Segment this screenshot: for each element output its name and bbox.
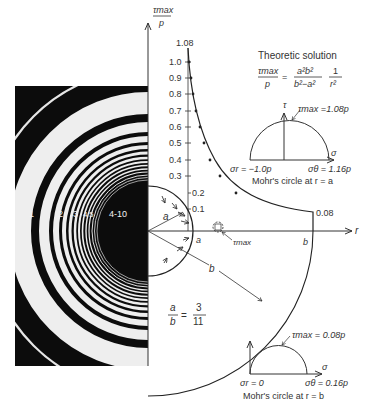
svg-text:2: 2 <box>58 209 63 219</box>
svg-text:Mohr's circle at r = b: Mohr's circle at r = b <box>243 391 324 401</box>
inner-radius-label: a <box>163 211 169 222</box>
svg-text:τmax: τmax <box>258 66 279 76</box>
svg-text:4-10: 4-10 <box>109 209 127 219</box>
svg-text:1.0: 1.0 <box>169 57 182 67</box>
tau-marker-label: τmax <box>233 238 252 247</box>
theory-formula: Theoretic solution τmax p = a²b² b²−a² 1… <box>258 50 342 89</box>
svg-text:τ: τ <box>283 100 287 110</box>
svg-text:0.4: 0.4 <box>169 155 182 165</box>
svg-text:b: b <box>170 316 176 327</box>
svg-text:0.1: 0.1 <box>192 204 205 214</box>
svg-text:τmax =1.08p: τmax =1.08p <box>298 104 349 114</box>
stress-element-icon: τmax <box>213 222 252 247</box>
svg-text:0.2: 0.2 <box>192 188 205 198</box>
svg-text:r²: r² <box>330 79 337 89</box>
outer-point-label: b <box>303 237 308 247</box>
svg-text:1: 1 <box>333 66 338 76</box>
outer-boundary <box>148 231 313 396</box>
svg-text:0.6: 0.6 <box>169 122 182 132</box>
svg-text:0.7: 0.7 <box>169 106 182 116</box>
svg-text:τmax = 0.08p: τmax = 0.08p <box>292 330 345 340</box>
svg-text:p: p <box>264 79 270 89</box>
svg-text:σr = −1.0p: σr = −1.0p <box>230 164 271 174</box>
svg-text:4: 4 <box>83 210 88 219</box>
experimental-points <box>188 61 238 195</box>
svg-text:τmax: τmax <box>153 5 174 15</box>
svg-text:11: 11 <box>193 316 204 327</box>
svg-text:Mohr's circle at r = a: Mohr's circle at r = a <box>252 176 333 186</box>
svg-text:3: 3 <box>73 209 78 219</box>
svg-text:σθ = 0.16p: σθ = 0.16p <box>305 378 348 388</box>
svg-text:b²−a²: b²−a² <box>294 79 316 89</box>
svg-text:=: = <box>282 72 287 82</box>
svg-text:0.3: 0.3 <box>169 171 182 181</box>
tail-label: 0.08 <box>316 208 334 218</box>
svg-text:5: 5 <box>89 210 94 219</box>
svg-text:a²b²: a²b² <box>297 66 314 76</box>
svg-text:σ: σ <box>331 148 337 158</box>
svg-text:0.8: 0.8 <box>169 89 182 99</box>
svg-text:p: p <box>158 18 164 28</box>
outer-radius-line-b <box>219 271 262 301</box>
stress-diagram: 1 2 3 4 5 4-10 τmax p r 1.08 1.0 0.9 0.8… <box>0 0 366 412</box>
svg-text:a: a <box>170 302 176 313</box>
r-axis-label: r <box>355 225 359 236</box>
outer-radius-label: b <box>209 263 215 274</box>
svg-text:3: 3 <box>196 302 202 313</box>
svg-text:0.9: 0.9 <box>169 73 182 83</box>
theoretical-curve <box>188 48 313 231</box>
peak-label: 1.08 <box>176 38 194 48</box>
svg-text:σθ = 1.16p: σθ = 1.16p <box>308 164 351 174</box>
svg-text:σr = 0: σr = 0 <box>240 378 264 388</box>
svg-text:0.5: 0.5 <box>169 138 182 148</box>
svg-text:=: = <box>181 310 187 321</box>
mohr-circle-b: σ τmax = 0.08p σr = 0 σθ = 0.16p Mohr's … <box>240 330 348 401</box>
mohr-circle-a: τ σ τmax =1.08p σr = −1.0p σθ = 1.16p Mo… <box>230 100 351 186</box>
inner-point-label: a <box>196 235 201 245</box>
svg-text:Theoretic solution: Theoretic solution <box>258 50 337 61</box>
svg-text:σ: σ <box>322 362 328 372</box>
ratio-label: a b = 3 11 <box>168 302 206 327</box>
svg-text:1: 1 <box>29 209 34 219</box>
y-axis-label: τmax p <box>153 5 174 28</box>
value-scale: 1.08 1.0 0.9 0.8 0.7 0.6 0.5 0.4 0.3 0.2… <box>169 38 205 231</box>
